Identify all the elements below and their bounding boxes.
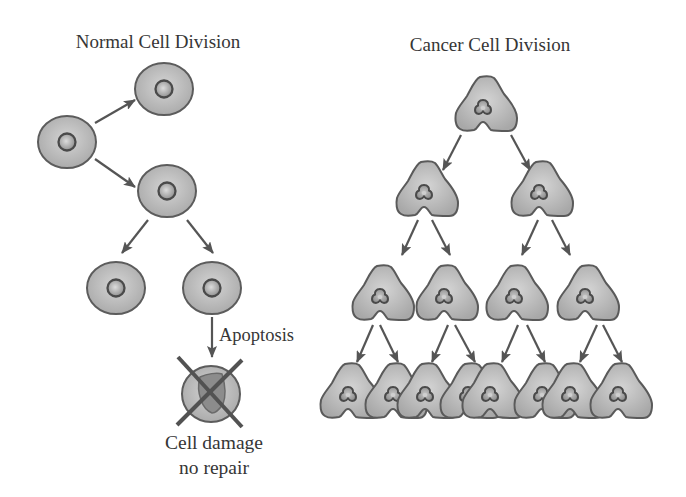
cancer-division-title: Cancer Cell Division [410, 34, 571, 55]
cancer-cell [590, 363, 652, 418]
normal-cell [135, 63, 193, 115]
division-arrow [455, 325, 475, 362]
division-arrow [580, 325, 597, 362]
division-arrow [432, 220, 450, 255]
outcome-label-line1: Cell damage [165, 432, 263, 453]
normal-cell [87, 262, 145, 314]
cell-division-diagram: Normal Cell Division Cancer Cell Divisio… [0, 0, 686, 497]
cancer-cell [455, 76, 517, 131]
cancer-cell [396, 161, 458, 216]
division-arrow [122, 220, 148, 253]
division-arrow [95, 100, 135, 123]
division-arrow [443, 135, 461, 170]
division-arrow [511, 135, 530, 170]
normal-cell [138, 165, 196, 217]
cancer-cell [511, 161, 573, 216]
normal-division-title: Normal Cell Division [76, 31, 241, 52]
cancer-cell [486, 265, 548, 320]
division-arrow [552, 220, 570, 255]
division-arrow [522, 220, 538, 255]
division-arrow [187, 220, 213, 253]
division-arrow [380, 325, 398, 362]
apoptosis-label: Apoptosis [219, 325, 294, 345]
division-arrow [603, 325, 622, 362]
division-arrow [527, 325, 545, 362]
arrows-layer [95, 100, 622, 362]
normal-cell [38, 116, 96, 168]
cancer-cells-layer [320, 76, 652, 418]
division-arrow [432, 325, 448, 362]
outcome-label-line2: no repair [179, 457, 249, 478]
cancer-cell [352, 265, 414, 320]
cancer-cell [416, 265, 478, 320]
division-arrow [95, 159, 135, 187]
apoptotic-cell [177, 357, 242, 427]
division-arrow [402, 220, 418, 255]
division-arrow [357, 325, 373, 362]
normal-cell [183, 262, 241, 314]
cancer-cell [557, 265, 619, 320]
normal-cells-layer [38, 63, 242, 427]
division-arrow [502, 325, 518, 362]
